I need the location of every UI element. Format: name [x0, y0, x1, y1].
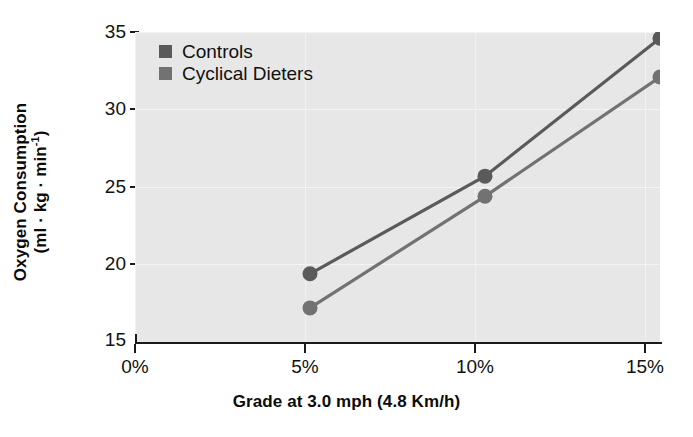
x-tick-label-0: 0%: [95, 356, 175, 378]
x-tick-label-15: 15%: [605, 356, 685, 378]
y-axis-units-prefix: (ml · kg · min: [31, 146, 50, 253]
x-tick-label-5: 5%: [265, 356, 345, 378]
x-tick-mark-0: [134, 344, 136, 353]
y-tick-label-35: 35: [86, 21, 126, 43]
y-tick-label-25: 25: [86, 176, 126, 198]
y-tick-label-20: 20: [86, 253, 126, 275]
y-axis-title-line-1: Oxygen Consumption: [11, 103, 31, 281]
x-axis-title: Grade at 3.0 mph (4.8 Km/h): [0, 392, 693, 412]
y-axis-title: Oxygen Consumption (ml · kg · min-1): [0, 12, 62, 372]
x-tick-mark-10: [474, 344, 476, 353]
oxygen-consumption-line-chart: Oxygen Consumption (ml · kg · min-1) 35 …: [0, 0, 693, 437]
plot-area: Controls Cyclical Dieters: [135, 32, 660, 342]
y-tick-label-15: 15: [86, 329, 126, 351]
legend-swatch-icon-controls: [159, 45, 172, 58]
data-point: [303, 300, 318, 315]
data-point: [303, 266, 318, 281]
legend-item-cyclical-dieters: Cyclical Dieters: [159, 64, 313, 83]
line-series-controls: [310, 38, 660, 274]
x-axis-origin-cap: [135, 334, 137, 343]
legend-label-controls: Controls: [182, 42, 253, 61]
markers-series-controls: [303, 32, 661, 281]
x-axis-line: [135, 342, 662, 344]
x-tick-label-10: 10%: [435, 356, 515, 378]
legend: Controls Cyclical Dieters: [159, 42, 313, 83]
legend-label-cyclical-dieters: Cyclical Dieters: [182, 64, 313, 83]
y-axis-units-suffix: ): [31, 131, 50, 137]
y-axis-title-line-2: (ml · kg · min-1): [31, 131, 51, 254]
y-axis-units-exponent: -1: [29, 136, 41, 146]
y-tick-label-30: 30: [86, 98, 126, 120]
data-point: [478, 189, 493, 204]
x-tick-mark-15: [644, 344, 646, 353]
legend-item-controls: Controls: [159, 42, 313, 61]
data-point: [478, 169, 493, 184]
x-tick-mark-5: [304, 344, 306, 353]
legend-swatch-icon-cyclical-dieters: [159, 67, 172, 80]
